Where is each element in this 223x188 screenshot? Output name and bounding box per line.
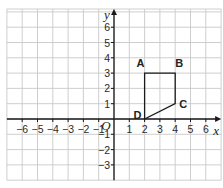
y-tick-label: 2 <box>104 82 110 94</box>
y-tick-label: 3 <box>104 67 110 79</box>
x-tick-label: 3 <box>157 123 163 135</box>
x-axis-label: x <box>212 123 219 138</box>
vertex-label-a: A <box>137 57 145 69</box>
y-tick-label: 5 <box>104 37 110 49</box>
y-tick-label: 1 <box>104 98 110 110</box>
vertex-label-c: C <box>179 98 187 110</box>
y-tick-label: 6 <box>104 21 110 33</box>
x-tick-label: 4 <box>172 123 178 135</box>
x-tick-label: 1 <box>126 123 132 135</box>
y-axis-label: y <box>102 7 110 22</box>
vertex-label-d: D <box>134 109 142 121</box>
vertex-label-b: B <box>175 57 183 69</box>
y-tick-label: −3 <box>98 159 110 171</box>
coordinate-grid: −6−5−4−3−2−1123456654321−1−2−3 ABCDxyO <box>0 0 223 188</box>
axis-ticks: −6−5−4−3−2−1123456654321−1−2−3 <box>16 21 209 171</box>
x-tick-label: −4 <box>47 123 59 135</box>
x-tick-label: −2 <box>77 123 89 135</box>
origin-label: O <box>101 118 111 133</box>
x-tick-label: 2 <box>142 123 148 135</box>
x-axis-arrow-icon <box>215 116 221 122</box>
x-tick-label: −3 <box>62 123 74 135</box>
x-tick-label: −6 <box>16 123 28 135</box>
y-tick-label: 4 <box>104 52 110 64</box>
x-tick-label: −5 <box>32 123 44 135</box>
axes <box>7 9 221 180</box>
x-tick-label: 5 <box>188 123 194 135</box>
y-tick-label: −2 <box>98 144 110 156</box>
x-tick-label: 6 <box>203 123 209 135</box>
